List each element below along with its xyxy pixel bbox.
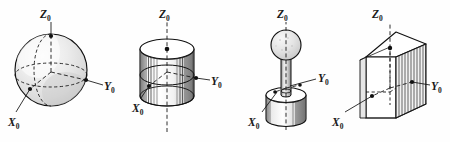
panel-cylinder: Z0 Y0 X0: [131, 8, 222, 132]
figure-sheet: Z0 Y0 X0: [0, 0, 450, 142]
panel-cube: Z0 Y0 X0: [331, 8, 442, 131]
cube-label-z: Z0: [371, 8, 383, 23]
cube-left-thickness: [360, 57, 366, 118]
cylinder-point-z: [165, 47, 170, 52]
ball-label-y: Y0: [318, 72, 329, 87]
sphere-label-z: Z0: [39, 8, 51, 23]
panel-ball-on-shaft: Z0 Y0 X0: [247, 8, 329, 131]
sphere-label-x: X0: [7, 116, 20, 131]
cube-label-x: X0: [331, 116, 344, 131]
cube-label-y: Y0: [431, 80, 442, 95]
panel-sphere: Z0 Y0 X0: [7, 8, 115, 131]
sphere-label-y: Y0: [104, 80, 115, 95]
cylinder-label-x: X0: [131, 102, 144, 117]
cylinder-label-z: Z0: [158, 8, 170, 23]
cube-point-z: [388, 46, 392, 50]
sphere-leader-y: [86, 80, 103, 85]
ball-leader-y: [290, 79, 316, 86]
ball-label-x: X0: [247, 116, 260, 131]
cylinder-label-y: Y0: [211, 75, 222, 90]
cylinder-leader-y: [196, 78, 210, 80]
ball-label-z: Z0: [276, 8, 288, 23]
